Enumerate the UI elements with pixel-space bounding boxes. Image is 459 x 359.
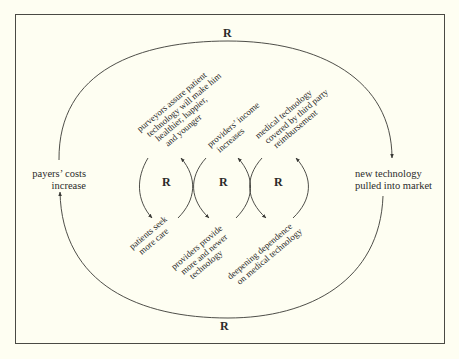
outer-loop-bottom-label: R <box>220 320 229 332</box>
inner-loop-3-right-arc <box>293 158 308 218</box>
node-new-technology-pulled-into-market: new technology pulled into market <box>355 168 445 192</box>
outer-loop-top-label: R <box>223 27 232 39</box>
inner-loop-1-left-arc <box>139 158 152 218</box>
inner-loop-2-left-arc <box>194 158 209 218</box>
inner-loop-1-right-arc <box>178 158 193 218</box>
inner-loop-2-right-arc <box>236 158 251 218</box>
node-payers-costs-increase: payers’ costs increase <box>20 168 86 192</box>
inner-loop-3-label: R <box>274 176 283 188</box>
inner-loop-1-label: R <box>162 176 171 188</box>
inner-loop-3-left-arc <box>250 158 266 218</box>
inner-loop-2-label: R <box>219 176 228 188</box>
